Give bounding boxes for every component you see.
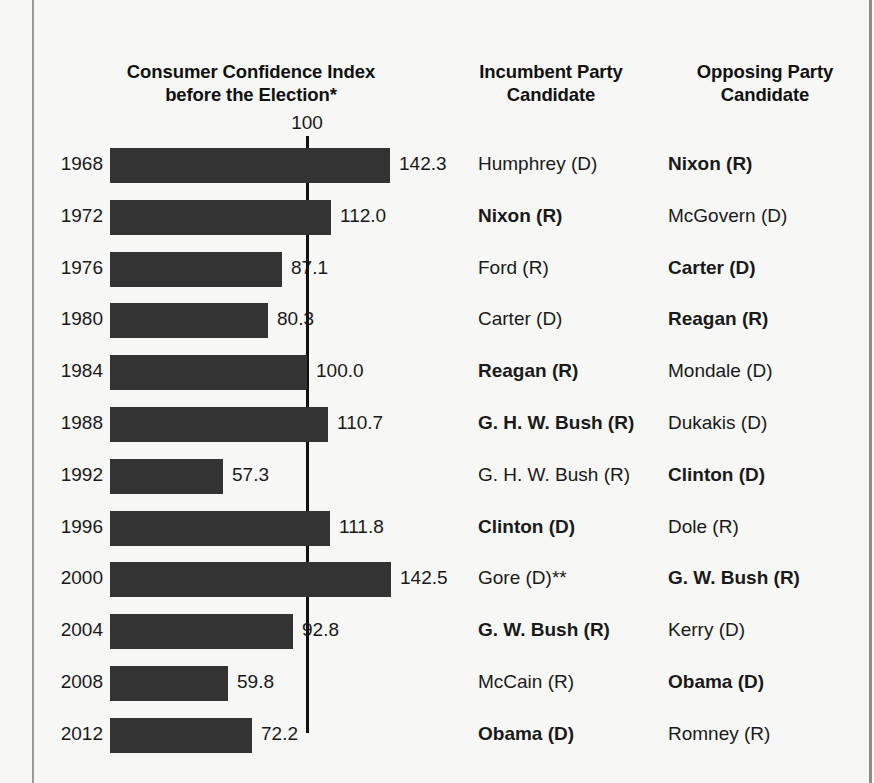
incumbent-candidate: G. H. W. Bush (R) <box>478 412 634 434</box>
opposing-candidate: McGovern (D) <box>668 205 787 227</box>
incumbent-candidate: Clinton (D) <box>478 516 575 538</box>
confidence-index-bar <box>110 718 252 753</box>
bar-value-label: 112.0 <box>340 205 386 227</box>
incumbent-candidate: Obama (D) <box>478 723 574 745</box>
chart-row: 1972112.0Nixon (R)McGovern (D) <box>0 192 874 244</box>
confidence-index-bar <box>110 511 330 546</box>
chart-row: 197687.1Ford (R)Carter (D) <box>0 244 874 296</box>
opposing-candidate: Dukakis (D) <box>668 412 767 434</box>
opposing-candidate: Obama (D) <box>668 671 764 693</box>
opposing-candidate: Romney (R) <box>668 723 770 745</box>
row-year-label: 2012 <box>33 723 103 745</box>
bar-value-label: 142.3 <box>399 153 447 175</box>
incumbent-candidate: Nixon (R) <box>478 205 562 227</box>
row-year-label: 2000 <box>33 567 103 589</box>
chart-row: 1988110.7G. H. W. Bush (R)Dukakis (D) <box>0 399 874 451</box>
opposing-candidate: G. W. Bush (R) <box>668 567 800 589</box>
confidence-index-bar <box>110 666 228 701</box>
confidence-index-bar <box>110 148 390 183</box>
bar-value-label: 142.5 <box>400 567 448 589</box>
chart-row: 201272.2Obama (D)Romney (R) <box>0 710 874 762</box>
bar-value-label: 92.8 <box>302 619 339 641</box>
opposing-candidate: Nixon (R) <box>668 153 752 175</box>
chart-row: 198080.3Carter (D)Reagan (R) <box>0 295 874 347</box>
opposing-candidate: Reagan (R) <box>668 308 768 330</box>
confidence-index-bar <box>110 355 307 390</box>
confidence-index-bar <box>110 614 293 649</box>
confidence-index-bar <box>110 459 223 494</box>
row-year-label: 2004 <box>33 619 103 641</box>
bar-value-label: 100.0 <box>316 360 364 382</box>
incumbent-candidate: Ford (R) <box>478 257 549 279</box>
row-year-label: 1984 <box>33 360 103 382</box>
incumbent-candidate: Carter (D) <box>478 308 562 330</box>
bar-value-label: 57.3 <box>232 464 269 486</box>
bar-value-label: 111.8 <box>339 516 384 538</box>
incumbent-candidate: G. W. Bush (R) <box>478 619 610 641</box>
chart-rows-container: 1968142.3Humphrey (D)Nixon (R)1972112.0N… <box>0 0 874 783</box>
chart-row: 200859.8McCain (R)Obama (D) <box>0 658 874 710</box>
incumbent-candidate: McCain (R) <box>478 671 574 693</box>
row-year-label: 2008 <box>33 671 103 693</box>
opposing-candidate: Kerry (D) <box>668 619 745 641</box>
chart-row: 2000142.5Gore (D)**G. W. Bush (R) <box>0 554 874 606</box>
incumbent-candidate: G. H. W. Bush (R) <box>478 464 630 486</box>
confidence-index-bar <box>110 562 391 597</box>
chart-row: 1984100.0Reagan (R)Mondale (D) <box>0 347 874 399</box>
chart-row: 200492.8G. W. Bush (R)Kerry (D) <box>0 606 874 658</box>
chart-row: 199257.3G. H. W. Bush (R)Clinton (D) <box>0 451 874 503</box>
chart-row: 1996111.8Clinton (D)Dole (R) <box>0 503 874 555</box>
page-canvas: Consumer Confidence Index before the Ele… <box>0 0 874 783</box>
row-year-label: 1968 <box>33 153 103 175</box>
bar-value-label: 80.3 <box>277 308 314 330</box>
row-year-label: 1992 <box>33 464 103 486</box>
incumbent-candidate: Reagan (R) <box>478 360 578 382</box>
bar-value-label: 59.8 <box>237 671 274 693</box>
confidence-index-bar <box>110 200 331 235</box>
row-year-label: 1996 <box>33 516 103 538</box>
row-year-label: 1976 <box>33 257 103 279</box>
confidence-index-bar <box>110 407 328 442</box>
bar-value-label: 110.7 <box>337 412 383 434</box>
bar-value-label: 87.1 <box>291 257 328 279</box>
confidence-index-bar <box>110 252 282 287</box>
bar-value-label: 72.2 <box>261 723 298 745</box>
row-year-label: 1972 <box>33 205 103 227</box>
chart-row: 1968142.3Humphrey (D)Nixon (R) <box>0 140 874 192</box>
opposing-candidate: Carter (D) <box>668 257 756 279</box>
row-year-label: 1980 <box>33 308 103 330</box>
incumbent-candidate: Humphrey (D) <box>478 153 597 175</box>
opposing-candidate: Clinton (D) <box>668 464 765 486</box>
opposing-candidate: Dole (R) <box>668 516 739 538</box>
row-year-label: 1988 <box>33 412 103 434</box>
incumbent-candidate: Gore (D)** <box>478 567 567 589</box>
opposing-candidate: Mondale (D) <box>668 360 773 382</box>
confidence-index-bar <box>110 303 268 338</box>
